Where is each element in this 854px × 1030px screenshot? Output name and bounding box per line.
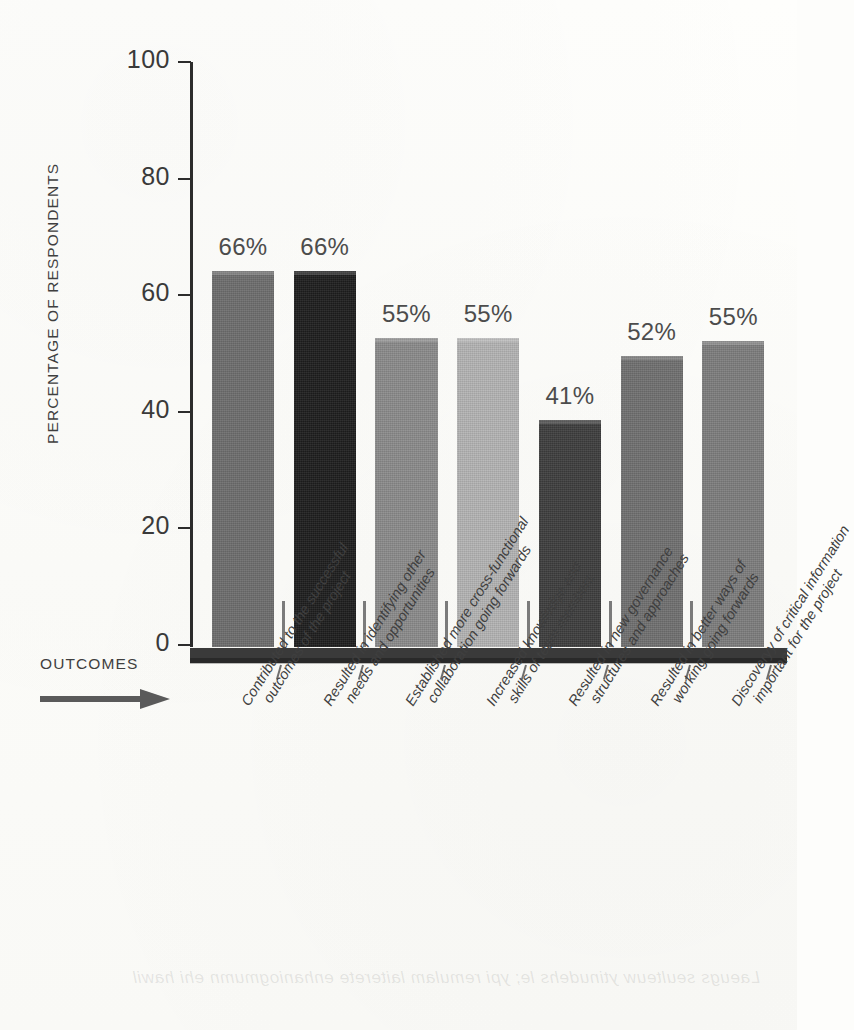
x-label-line-1: Discoveryy of critical information <box>728 523 853 709</box>
x-label-line-2: important for the project <box>743 532 854 718</box>
x-axis-category-label: Discoveryy of critical informationimport… <box>728 523 854 718</box>
